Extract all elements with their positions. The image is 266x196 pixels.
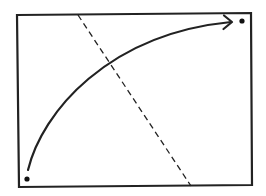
dashed-diagonal-line <box>78 15 191 186</box>
curved-arrow-path <box>28 22 231 170</box>
diagram-figure <box>0 0 266 196</box>
start-dot <box>24 176 29 181</box>
diagram-canvas <box>0 0 266 196</box>
end-dot <box>239 18 244 23</box>
